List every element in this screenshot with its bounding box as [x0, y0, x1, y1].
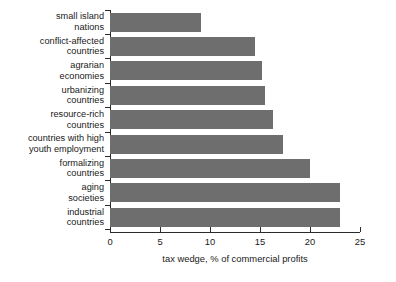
category-tick: [105, 180, 110, 181]
category-label-line: countries: [67, 120, 104, 131]
category-label-line: countries: [67, 46, 104, 57]
category-label: countries with highyouth employment: [0, 135, 104, 154]
category-tick: [105, 132, 110, 133]
category-label: urbanizingcountries: [0, 86, 104, 105]
category-label: agrarianeconomies: [0, 61, 104, 80]
category-label-line: countries: [67, 95, 104, 106]
category-label-line: countries: [67, 217, 104, 228]
category-label: formalizingcountries: [0, 159, 104, 178]
value-tick-label: 5: [157, 236, 162, 247]
category-tick: [105, 156, 110, 157]
x-axis-title: tax wedge, % of commercial profits: [110, 253, 360, 264]
bar: [110, 183, 340, 202]
category-label-line: urbanizing: [62, 85, 104, 96]
category-label-line: conflict-affected: [40, 36, 104, 47]
category-label-line: youth employment: [29, 144, 104, 155]
bar: [110, 13, 201, 32]
bar-chart: small islandnationsconflict-affectedcoun…: [0, 0, 396, 282]
category-label: small islandnations: [0, 13, 104, 32]
value-tick-label: 25: [355, 236, 365, 247]
bar: [110, 135, 283, 154]
category-label-line: countries with high: [28, 133, 104, 144]
bar: [110, 159, 310, 178]
bar: [110, 208, 340, 227]
category-tick: [105, 107, 110, 108]
value-tick: [360, 227, 361, 232]
category-label-line: resource-rich: [50, 109, 104, 120]
value-tick: [210, 227, 211, 232]
category-tick: [105, 58, 110, 59]
category-label: industrialcountries: [0, 208, 104, 227]
bar: [110, 37, 255, 56]
category-label: agingsocieties: [0, 183, 104, 202]
value-tick-label: 10: [205, 236, 215, 247]
category-label: resource-richcountries: [0, 110, 104, 129]
value-tick: [160, 227, 161, 232]
category-tick: [105, 34, 110, 35]
category-label-line: economies: [60, 71, 104, 82]
category-label-line: aging: [82, 182, 104, 193]
category-tick: [105, 205, 110, 206]
category-label-line: small island: [56, 11, 104, 22]
category-label-line: countries: [67, 168, 104, 179]
value-tick-label: 20: [305, 236, 315, 247]
value-tick-label: 15: [255, 236, 265, 247]
bar: [110, 110, 273, 129]
category-tick: [105, 10, 110, 11]
value-axis-line: [110, 232, 360, 233]
value-tick-label: 0: [107, 236, 112, 247]
category-tick: [105, 83, 110, 84]
value-tick: [110, 227, 111, 232]
value-tick: [260, 227, 261, 232]
category-label-line: agrarian: [70, 60, 104, 71]
category-label-column: small islandnationsconflict-affectedcoun…: [0, 0, 104, 232]
bar: [110, 61, 262, 80]
category-label: conflict-affectedcountries: [0, 37, 104, 56]
category-label-line: industrial: [67, 207, 104, 218]
bar: [110, 86, 265, 105]
category-label-line: formalizing: [60, 158, 104, 169]
value-tick: [310, 227, 311, 232]
category-label-line: societies: [68, 193, 104, 204]
category-label-line: nations: [74, 22, 104, 33]
